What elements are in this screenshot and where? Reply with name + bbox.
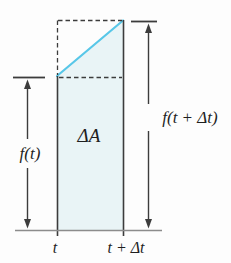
calculus-area-diagram: f(t) ΔA f(t + Δt) t t + Δt — [0, 0, 231, 263]
ftdt-arrowhead-down-icon — [145, 219, 152, 229]
ftdt-arrowhead-up-icon — [145, 24, 152, 34]
axis-t-plus-dt-label: t + Δt — [107, 239, 145, 256]
ft-height-label: f(t) — [20, 144, 41, 163]
ftdt-height-label: f(t + Δt) — [162, 108, 218, 127]
ft-arrowhead-up-icon — [24, 80, 31, 90]
ft-arrowhead-down-icon — [24, 219, 31, 229]
delta-area-label: ΔA — [77, 125, 101, 146]
diagram-canvas: f(t) ΔA f(t + Δt) t t + Δt — [0, 0, 231, 263]
axis-t-label: t — [53, 239, 58, 256]
